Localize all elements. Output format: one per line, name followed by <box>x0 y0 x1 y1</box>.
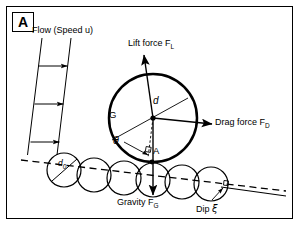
xi-symbol: ξ <box>212 203 218 214</box>
contact-point-label: A <box>153 146 159 156</box>
flow-velocity-profile <box>28 38 72 155</box>
bed-grain-diameter-label: d0 <box>58 159 66 170</box>
bed-grain-diameter-subscript: 0 <box>63 163 67 170</box>
grain-diameter-line <box>112 98 188 140</box>
gravity-force-subscript: G <box>154 202 159 209</box>
lift-force-label: Lift force FL <box>128 39 174 50</box>
pivot-angle-label: θ <box>113 136 119 146</box>
grain-diameter-label: d <box>153 96 159 106</box>
perpendicular-marker-a <box>145 118 153 158</box>
center-point-label: G <box>109 110 116 120</box>
contact-point-a <box>150 160 155 165</box>
center-of-gravity-point <box>150 115 155 120</box>
drag-force-subscript: D <box>265 122 270 129</box>
gravity-force-label: Gravity FG <box>117 198 159 209</box>
lift-force-text: Lift force F <box>128 38 171 48</box>
drag-force-label: Drag force FD <box>215 118 270 129</box>
drag-force-text: Drag force F <box>215 117 265 127</box>
gravity-force-text: Gravity F <box>117 197 154 207</box>
flow-label: Flow (Speed u) <box>32 26 93 35</box>
drag-force-vector <box>153 118 212 124</box>
lift-force-subscript: L <box>171 43 175 50</box>
lift-force-vector <box>144 55 153 118</box>
panel-label-a: A <box>12 12 34 32</box>
figure-panel-a: A Flow (Speed u) Lift force FL Drag forc… <box>0 0 301 227</box>
dip-angle-label: Dip ξ <box>196 204 218 214</box>
bed-grain <box>77 158 111 192</box>
dip-text: Dip <box>196 204 212 214</box>
